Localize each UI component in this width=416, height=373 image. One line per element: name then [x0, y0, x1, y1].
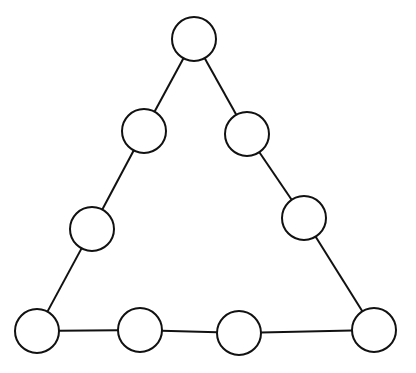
node-bottom-right [352, 308, 396, 352]
edge-left-upper-left-lower [102, 150, 133, 209]
node-top [172, 17, 216, 61]
node-left-lower [70, 207, 114, 251]
node-bottom-left [15, 309, 59, 353]
edge-bottom-left-bottom-2 [59, 330, 118, 331]
edge-right-lower-bottom-right [316, 237, 363, 312]
edge-top-right-upper [205, 58, 237, 115]
edges-group [47, 58, 362, 332]
triangle-diagram [0, 0, 416, 373]
edge-bottom-3-bottom-right [261, 330, 352, 332]
node-right-upper [225, 112, 269, 156]
edge-top-left-upper [155, 58, 184, 111]
node-bottom-2 [118, 308, 162, 352]
node-left-upper [122, 109, 166, 153]
node-bottom-3 [217, 311, 261, 355]
nodes-group [15, 17, 396, 355]
edge-bottom-2-bottom-3 [162, 331, 217, 333]
node-right-lower [282, 196, 326, 240]
edge-right-upper-right-lower [259, 152, 291, 200]
edge-left-lower-bottom-left [47, 248, 81, 311]
